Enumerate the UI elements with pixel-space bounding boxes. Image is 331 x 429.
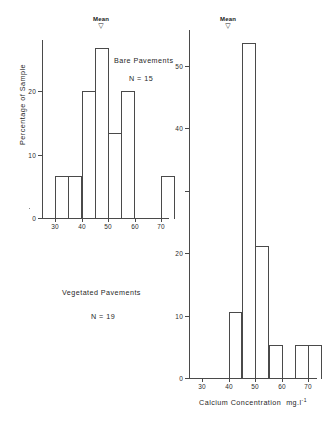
bottom-bar-70-75 — [308, 345, 322, 379]
bottom-y-tick-0 — [185, 378, 189, 379]
bottom-bar-45-50 — [242, 43, 256, 379]
bottom-mean-triangle-icon: ▽ — [220, 23, 236, 29]
bottom-mean-marker: Mean ▽ — [220, 16, 236, 29]
bottom-panel-sample-note: N = 19 — [91, 312, 115, 321]
bottom-x-tick-label-70: 70 — [304, 383, 312, 390]
bottom-y-tick-label-50: 50 — [171, 63, 183, 70]
bottom-x-tick-label-50: 50 — [251, 383, 259, 390]
bottom-bar-65-70 — [295, 345, 309, 379]
bottom-y-tick-label-40: 40 — [171, 125, 183, 132]
x-axis-label-unit-exponent: -1 — [302, 397, 307, 403]
bottom-bar-55-60 — [269, 345, 283, 379]
histogram-figure: Percentage of Sample 0 10 20 30 40 50 60… — [0, 0, 331, 429]
bottom-x-tick-label-30: 30 — [198, 383, 206, 390]
bottom-bar-50-55 — [255, 246, 269, 379]
bottom-y-axis-line — [189, 30, 190, 379]
bottom-y-tick-50 — [185, 66, 189, 67]
bottom-y-tick-20 — [185, 253, 189, 254]
bottom-x-tick-label-40: 40 — [225, 383, 233, 390]
bottom-panel-title: Vegetated Pavements — [62, 288, 141, 297]
bottom-bar-40-45 — [229, 312, 242, 379]
bottom-y-tick-30 — [185, 191, 189, 192]
x-axis-label: Calcium Concentration mg.l-1 — [199, 397, 307, 407]
bottom-y-tick-10 — [185, 316, 189, 317]
bottom-x-tick-30 — [202, 378, 203, 382]
bottom-y-tick-40 — [185, 128, 189, 129]
bottom-y-tick-label-0: 0 — [175, 375, 183, 382]
bottom-x-tick-label-60: 60 — [278, 383, 286, 390]
bottom-panel-vegetated-pavements: 0 10 20 40 50 30 40 50 60 70 Mean ▽ — [0, 0, 331, 429]
x-axis-label-unit: mg.l — [286, 398, 301, 407]
bottom-y-tick-label-20: 20 — [171, 250, 183, 257]
x-axis-label-main: Calcium Concentration — [199, 398, 281, 407]
bottom-y-tick-label-10: 10 — [171, 313, 183, 320]
